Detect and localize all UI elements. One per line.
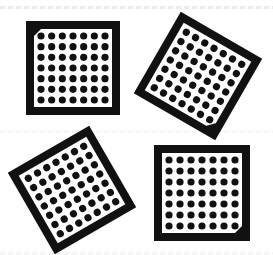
grid-dot [91,96,98,103]
grid-dot [101,86,108,93]
grid-dot [80,64,87,71]
grid-dot [231,178,238,185]
grid-dot [37,54,44,61]
grid-dot [187,222,194,229]
grid-dot [91,32,98,39]
grid-dot [48,43,55,50]
grid-dot [187,156,194,163]
grid-dot [48,86,55,93]
grid-dot [80,96,87,103]
grid-dot [101,54,108,61]
grid-dot [209,222,216,229]
grid-dot [176,200,183,207]
grid-dot [198,156,205,163]
grid-dot [165,222,172,229]
grid-dot [37,96,44,103]
grid-dot [231,200,238,207]
grid-dot [198,189,205,196]
tile-bottom-right [154,145,250,241]
grid-dot [80,43,87,50]
grid-dot [101,43,108,50]
grid-dot [176,156,183,163]
grid-dot [209,189,216,196]
grid-dot [220,167,227,174]
grid-dot [59,43,66,50]
grid-dot [80,32,87,39]
grid-dot [198,222,205,229]
grid-dot [69,54,76,61]
grid-dot [187,167,194,174]
grid-dot [37,75,44,82]
grid-dot [48,54,55,61]
grid-dot [165,189,172,196]
grid-dot [198,167,205,174]
grid-dot [101,96,108,103]
grid-dot [80,54,87,61]
grid-dot [176,211,183,218]
grid-dot [59,64,66,71]
grid-dot [37,43,44,50]
grid-dot [59,75,66,82]
grid-dot [187,211,194,218]
grid-dot [37,32,44,39]
grid-dot [231,189,238,196]
grid-dot [69,43,76,50]
grid-dot [69,64,76,71]
grid-dot [176,222,183,229]
grid-dot [187,189,194,196]
grid-dot [220,178,227,185]
tile-top-right [134,12,262,140]
grid-dot [220,156,227,163]
grid-dot [37,86,44,93]
grid-dot [48,32,55,39]
dot-grid-tiles-figure [0,0,273,255]
tile-top-left [26,21,120,115]
grid-dot [69,32,76,39]
grid-dot [231,211,238,218]
grid-dot [37,64,44,71]
grid-dot [165,167,172,174]
grid-dot [198,200,205,207]
grid-dot [165,178,172,185]
grid-dot [101,64,108,71]
grid-dot [80,75,87,82]
grid-dot [220,189,227,196]
grid-dot [48,75,55,82]
grid-dot [165,200,172,207]
grid-dot [59,32,66,39]
grid-dot [231,167,238,174]
grid-dot [198,211,205,218]
grid-dot [220,211,227,218]
grid-dot [187,178,194,185]
grid-dot [209,211,216,218]
grid-dot [48,96,55,103]
grid-dot [231,222,238,229]
grid-dot [59,96,66,103]
grid-dot [59,86,66,93]
grid-dot [48,64,55,71]
grid-dot [69,86,76,93]
grid-dot [220,222,227,229]
grid-dot [198,178,205,185]
grid-dot [165,211,172,218]
grid-dot [187,200,194,207]
grid-dot [101,75,108,82]
grid-dot [91,54,98,61]
grid-dot [69,96,76,103]
grid-dot [165,156,172,163]
grid-dot [176,167,183,174]
grid-dot [176,178,183,185]
grid-dot [91,43,98,50]
grid-dot [101,32,108,39]
grid-dot [176,189,183,196]
grid-dot [231,156,238,163]
grid-dot [80,86,87,93]
grid-dot [69,75,76,82]
grid-dot [91,75,98,82]
grid-dot [91,64,98,71]
grid-dot [59,54,66,61]
grid-dot [209,178,216,185]
grid-dot [209,167,216,174]
tile-bottom-left [8,126,136,254]
grid-dot [220,200,227,207]
